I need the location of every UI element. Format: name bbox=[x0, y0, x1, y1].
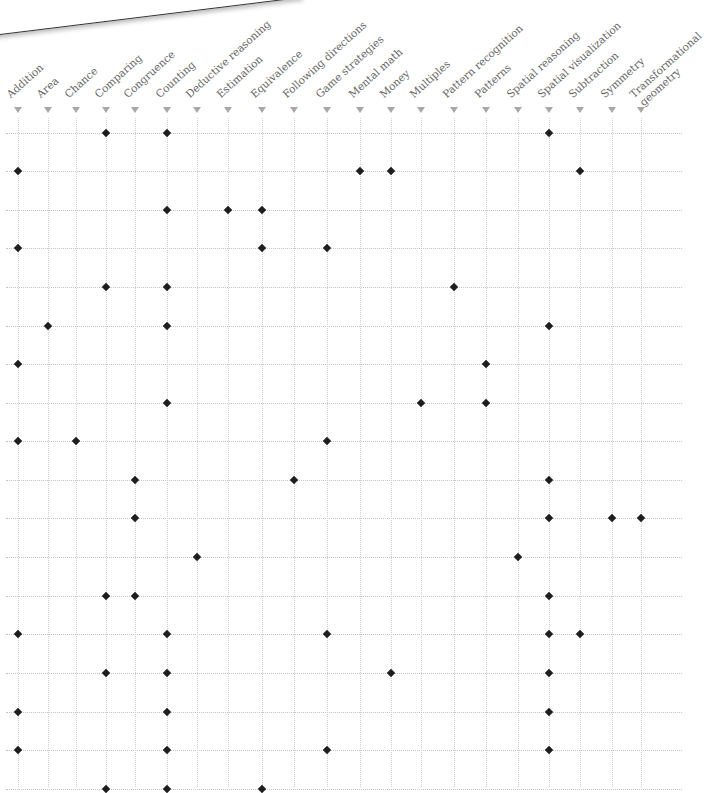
data-marker bbox=[258, 206, 266, 214]
grid-column-line bbox=[197, 118, 198, 787]
column-arrow-icon[interactable] bbox=[356, 107, 364, 113]
column-arrow-icon[interactable] bbox=[72, 107, 80, 113]
data-marker bbox=[545, 708, 553, 716]
data-marker bbox=[387, 167, 395, 175]
column-arrow-icon[interactable] bbox=[14, 107, 22, 113]
grid-column-line bbox=[135, 118, 136, 787]
data-marker bbox=[482, 360, 490, 368]
grid-column-line bbox=[454, 118, 455, 787]
data-marker bbox=[14, 244, 22, 252]
grid-column-line bbox=[48, 118, 49, 787]
data-marker bbox=[545, 129, 553, 137]
data-marker bbox=[14, 630, 22, 638]
data-marker bbox=[131, 592, 139, 600]
column-arrow-icon[interactable] bbox=[290, 107, 298, 113]
data-marker bbox=[482, 399, 490, 407]
column-arrow-icon[interactable] bbox=[576, 107, 584, 113]
data-marker bbox=[163, 669, 171, 677]
data-marker bbox=[323, 746, 331, 754]
data-marker bbox=[14, 746, 22, 754]
column-arrow-icon[interactable] bbox=[193, 107, 201, 113]
data-marker bbox=[163, 322, 171, 330]
grid-column-line bbox=[518, 118, 519, 787]
grid-column-line bbox=[486, 118, 487, 787]
data-marker bbox=[545, 669, 553, 677]
column-header-chance[interactable]: Chance bbox=[62, 64, 100, 100]
column-arrow-icon[interactable] bbox=[323, 107, 331, 113]
data-marker bbox=[163, 785, 171, 793]
data-marker bbox=[163, 283, 171, 291]
data-marker bbox=[290, 476, 298, 484]
data-marker bbox=[163, 708, 171, 716]
column-arrow-icon[interactable] bbox=[131, 107, 139, 113]
data-marker bbox=[356, 167, 364, 175]
column-arrow-icon[interactable] bbox=[608, 107, 616, 113]
data-marker bbox=[450, 283, 458, 291]
data-marker bbox=[637, 514, 645, 522]
data-marker bbox=[545, 514, 553, 522]
grid-column-line bbox=[294, 118, 295, 787]
data-marker bbox=[387, 669, 395, 677]
data-marker bbox=[576, 167, 584, 175]
grid-column-line bbox=[327, 118, 328, 787]
data-marker bbox=[514, 553, 522, 561]
grid-column-line bbox=[262, 118, 263, 787]
column-arrow-icon[interactable] bbox=[387, 107, 395, 113]
data-marker bbox=[608, 514, 616, 522]
data-marker bbox=[545, 592, 553, 600]
data-marker bbox=[102, 283, 110, 291]
column-arrow-icon[interactable] bbox=[482, 107, 490, 113]
grid-column-line bbox=[580, 118, 581, 787]
data-marker bbox=[545, 630, 553, 638]
column-header-area[interactable]: Area bbox=[34, 74, 61, 100]
data-marker bbox=[102, 785, 110, 793]
data-marker bbox=[545, 476, 553, 484]
data-marker bbox=[224, 206, 232, 214]
grid-column-line bbox=[612, 118, 613, 787]
data-marker bbox=[102, 669, 110, 677]
data-marker bbox=[163, 399, 171, 407]
grid-column-line bbox=[76, 118, 77, 787]
grid-column-line bbox=[421, 118, 422, 787]
column-arrow-icon[interactable] bbox=[224, 107, 232, 113]
grid-column-line bbox=[228, 118, 229, 787]
data-marker bbox=[102, 129, 110, 137]
data-marker bbox=[545, 746, 553, 754]
data-marker bbox=[163, 129, 171, 137]
column-arrow-icon[interactable] bbox=[102, 107, 110, 113]
data-marker bbox=[44, 322, 52, 330]
column-arrow-icon[interactable] bbox=[44, 107, 52, 113]
data-marker bbox=[14, 167, 22, 175]
column-arrow-icon[interactable] bbox=[514, 107, 522, 113]
grid-column-line bbox=[549, 118, 550, 787]
column-arrow-icon[interactable] bbox=[637, 107, 645, 113]
column-arrow-icon[interactable] bbox=[545, 107, 553, 113]
grid-column-line bbox=[167, 118, 168, 787]
data-marker bbox=[163, 206, 171, 214]
data-marker bbox=[14, 360, 22, 368]
column-arrow-icon[interactable] bbox=[163, 107, 171, 113]
data-marker bbox=[417, 399, 425, 407]
grid-column-line bbox=[641, 118, 642, 787]
data-marker bbox=[72, 437, 80, 445]
data-marker bbox=[14, 437, 22, 445]
data-marker bbox=[258, 244, 266, 252]
data-marker bbox=[14, 708, 22, 716]
column-arrow-icon[interactable] bbox=[450, 107, 458, 113]
grid-column-line bbox=[391, 118, 392, 787]
data-marker bbox=[258, 785, 266, 793]
grid-column-line bbox=[106, 118, 107, 787]
data-marker bbox=[102, 592, 110, 600]
data-marker bbox=[323, 244, 331, 252]
data-marker bbox=[193, 553, 201, 561]
column-arrow-icon[interactable] bbox=[258, 107, 266, 113]
data-marker bbox=[545, 322, 553, 330]
data-marker bbox=[131, 514, 139, 522]
data-marker bbox=[131, 476, 139, 484]
grid-column-line bbox=[360, 118, 361, 787]
data-marker bbox=[323, 437, 331, 445]
column-arrow-icon[interactable] bbox=[417, 107, 425, 113]
data-marker bbox=[163, 630, 171, 638]
data-marker bbox=[323, 630, 331, 638]
